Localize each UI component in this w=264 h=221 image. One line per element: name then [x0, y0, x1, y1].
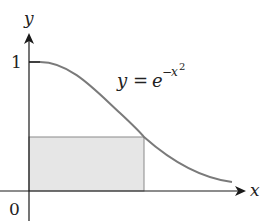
origin-label: 0	[9, 199, 20, 219]
equation-label: y = e − x 2	[116, 61, 185, 91]
x-axis-label: x	[250, 180, 260, 200]
equation-equals: =	[133, 70, 148, 91]
diagram-canvas: y 1 0 x y = e − x 2	[0, 0, 264, 221]
y-tick-label: 1	[11, 52, 22, 72]
inscribed-rectangle	[29, 137, 144, 191]
y-axis-label: y	[23, 8, 34, 28]
equation-exponent-power: 2	[179, 61, 185, 72]
equation-exponent-var: x	[171, 65, 178, 79]
equation-lhs: y	[116, 70, 128, 91]
